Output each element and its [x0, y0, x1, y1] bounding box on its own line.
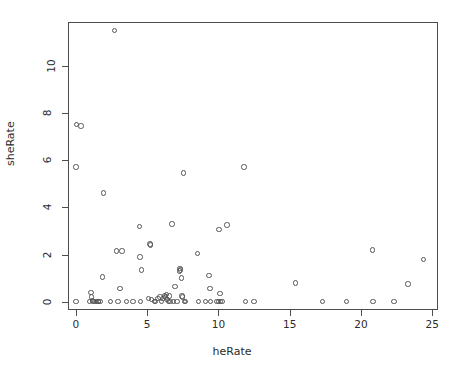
x-tick-label: 20 [354, 318, 367, 330]
x-tick-mark [147, 310, 148, 316]
y-tick-mark [62, 302, 68, 303]
y-tick-mark [62, 66, 68, 67]
y-tick-label: 10 [45, 59, 57, 72]
plot-area-frame [68, 22, 438, 310]
x-tick-label: 0 [72, 318, 79, 330]
x-tick-mark [218, 310, 219, 316]
x-tick-label: 15 [283, 318, 296, 330]
y-tick-mark [62, 207, 68, 208]
x-tick-label: 5 [144, 318, 151, 330]
y-tick-label: 6 [41, 157, 53, 164]
y-tick-label: 2 [41, 251, 53, 258]
y-tick-mark [62, 160, 68, 161]
scatter-plot-figure: 0510152025 0246810 heRate sheRate [0, 0, 464, 379]
y-tick-mark [62, 255, 68, 256]
y-tick-label: 8 [41, 110, 53, 117]
x-tick-mark [361, 310, 362, 316]
x-tick-mark [290, 310, 291, 316]
y-tick-label: 4 [41, 204, 53, 211]
y-tick-mark [62, 113, 68, 114]
x-tick-mark [432, 310, 433, 316]
y-tick-label: 0 [41, 298, 53, 305]
x-tick-label: 10 [212, 318, 225, 330]
y-axis-label: sheRate [4, 121, 17, 166]
x-tick-mark [76, 310, 77, 316]
x-axis-label: heRate [0, 345, 464, 358]
x-tick-label: 25 [426, 318, 439, 330]
